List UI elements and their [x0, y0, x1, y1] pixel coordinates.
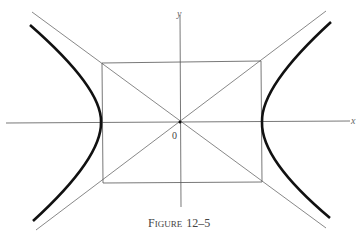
- origin-point: [179, 121, 182, 124]
- figure-caption: FIGURE12–5: [148, 216, 210, 230]
- origin-label: 0: [172, 130, 177, 141]
- x-axis-label: x: [350, 115, 356, 126]
- hyperbola-diagram: y x 0 FIGURE12–5: [0, 0, 363, 243]
- y-axis: [180, 15, 181, 207]
- y-axis-label: y: [176, 8, 182, 19]
